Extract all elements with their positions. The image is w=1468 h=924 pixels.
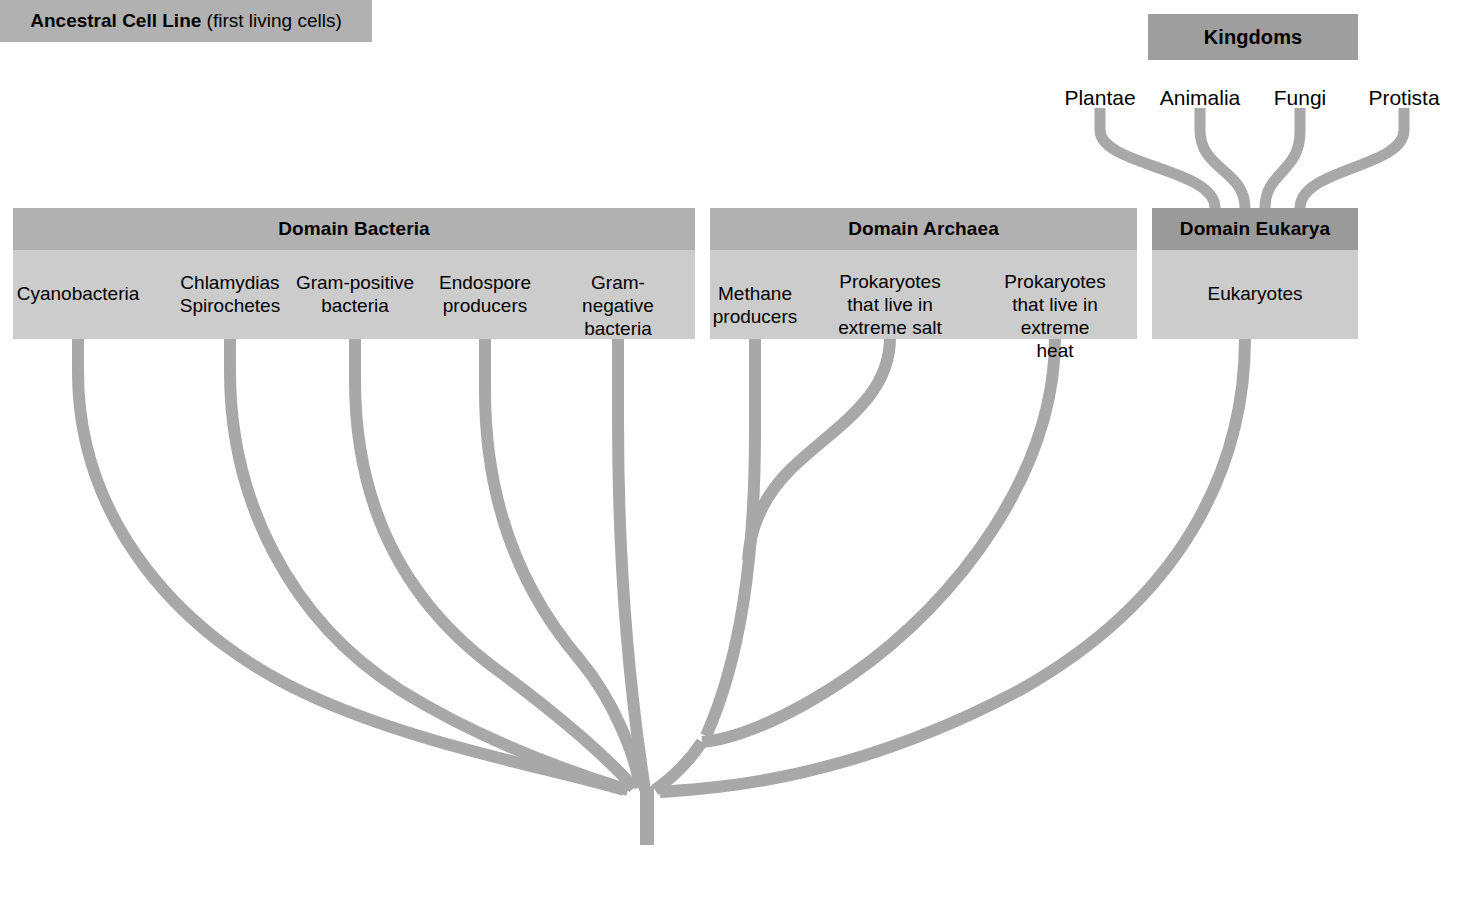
- kingdom-label-fungi: Fungi: [1274, 86, 1327, 110]
- leaf-label-extreme-salt: Prokaryotes that live in extreme salt: [838, 270, 941, 339]
- branch-gram-negative: [618, 338, 645, 790]
- branch-animalia: [1200, 108, 1245, 208]
- domain-box-eukarya: Domain Eukarya Eukaryotes: [1152, 208, 1358, 339]
- kingdoms-title-label: Kingdoms: [1148, 14, 1358, 60]
- leaf-label-gram-positive-bacteria: Gram-positive bacteria: [296, 271, 414, 317]
- diagram-canvas: Kingdoms Plantae Animalia Fungi Protista…: [0, 0, 1468, 924]
- branch-chlamydias-spirochetes: [230, 338, 628, 790]
- leaf-label-endospore-producers: Endospore producers: [439, 271, 531, 317]
- branch-methane-producers: [706, 338, 755, 736]
- domain-body-bacteria: Cyanobacteria Chlamydias Spirochetes Gra…: [13, 250, 695, 339]
- branch-endospore: [485, 338, 640, 788]
- leaf-label-extreme-heat: Prokaryotes that live in extreme heat: [1004, 270, 1105, 362]
- branch-protista: [1300, 108, 1404, 208]
- branch-lines: [0, 0, 1468, 924]
- branch-archaea-trunk: [655, 742, 702, 790]
- domain-title-bacteria: Domain Bacteria: [13, 208, 695, 250]
- domain-body-eukarya: Eukaryotes: [1152, 250, 1358, 339]
- leaf-label-methane-producers: Methane producers: [713, 282, 798, 328]
- leaf-label-chlamydias-spirochetes: Chlamydias Spirochetes: [180, 271, 280, 317]
- domain-title-archaea: Domain Archaea: [710, 208, 1137, 250]
- kingdom-label-protista: Protista: [1368, 86, 1439, 110]
- branch-cyanobacteria: [78, 338, 624, 790]
- branch-gram-positive: [355, 338, 634, 788]
- leaf-label-gram-negative-bacteria: Gram-negative bacteria: [580, 271, 657, 340]
- leaf-label-cyanobacteria: Cyanobacteria: [17, 282, 140, 305]
- kingdom-label-plantae: Plantae: [1064, 86, 1135, 110]
- branch-extreme-heat: [702, 338, 1055, 742]
- domain-box-archaea: Domain Archaea Methane producers Prokary…: [710, 208, 1137, 339]
- domain-body-archaea: Methane producers Prokaryotes that live …: [710, 250, 1137, 339]
- branch-plantae: [1100, 108, 1215, 208]
- branch-fungi: [1265, 108, 1300, 208]
- domain-title-eukarya: Domain Eukarya: [1152, 208, 1358, 250]
- ancestral-cell-line-box: Ancestral Cell Line (first living cells): [0, 0, 372, 42]
- ancestral-bold-text: Ancestral Cell Line: [30, 10, 201, 31]
- kingdom-label-animalia: Animalia: [1160, 86, 1241, 110]
- leaf-label-eukaryotes: Eukaryotes: [1207, 282, 1302, 305]
- branch-extreme-salt: [748, 338, 890, 560]
- kingdoms-title-box: Kingdoms: [1148, 14, 1358, 60]
- branch-eukarya: [660, 338, 1245, 792]
- ancestral-rest-text: (first living cells): [201, 10, 341, 31]
- domain-box-bacteria: Domain Bacteria Cyanobacteria Chlamydias…: [13, 208, 695, 339]
